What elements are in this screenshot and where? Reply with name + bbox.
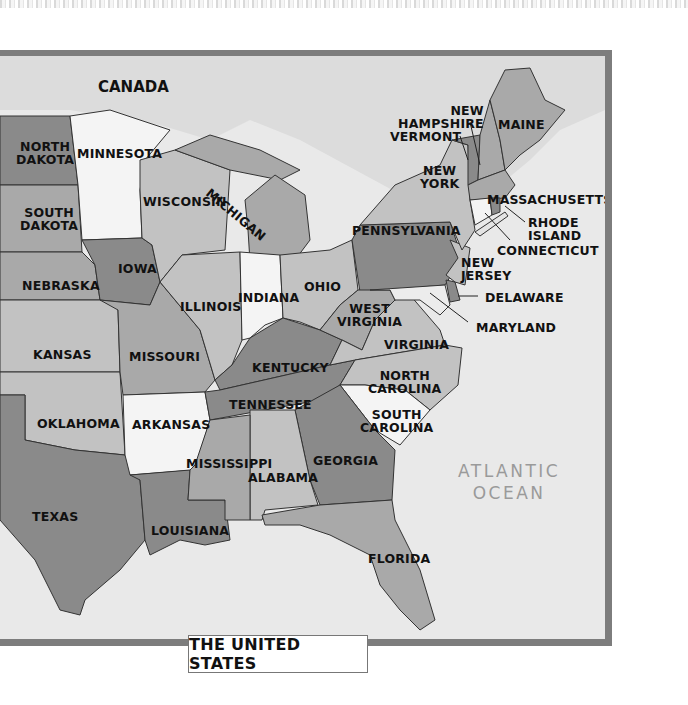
label-west-virginia: WESTVIRGINIA <box>337 302 402 328</box>
label-new-jersey: NEWJERSEY <box>461 256 512 282</box>
label-alabama: ALABAMA <box>248 471 318 484</box>
label-canada: CANADA <box>98 78 169 96</box>
label-texas: TEXAS <box>32 510 78 523</box>
state-michigan-lower <box>245 175 310 262</box>
label-north-dakota: NORTHDAKOTA <box>16 140 74 166</box>
label-maine: MAINE <box>498 118 545 131</box>
label-connecticut: CONNECTICUT <box>497 244 599 257</box>
map-title-box: THE UNITED STATES <box>188 635 368 673</box>
label-iowa: IOWA <box>118 262 157 275</box>
label-mississippi: MISSISSIPPI <box>186 457 272 470</box>
map-title: THE UNITED STATES <box>189 635 367 673</box>
label-maryland: MARYLAND <box>476 321 556 334</box>
label-arkansas: ARKANSAS <box>132 418 210 431</box>
label-pennsylvania: PENNSYLVANIA <box>352 224 461 237</box>
label-wisconsin: WISCONSIN <box>143 195 227 208</box>
label-south-dakota: SOUTHDAKOTA <box>20 206 78 232</box>
label-kentucky: KENTUCKY <box>252 361 329 374</box>
label-new-hampshire: NEWHAMPSHIRE <box>398 104 484 130</box>
label-delaware: DELAWARE <box>485 291 564 304</box>
label-atlantic-ocean: ATLANTIC OCEAN <box>458 460 560 504</box>
label-massachusetts: MASSACHUSETTS <box>487 193 605 206</box>
scan-noise-strip <box>0 0 688 8</box>
label-tennessee: TENNESSEE <box>229 398 312 411</box>
label-north-carolina: NORTHCAROLINA <box>368 369 441 395</box>
label-louisiana: LOUISIANA <box>151 524 229 537</box>
label-georgia: GEORGIA <box>313 454 378 467</box>
label-vermont: VERMONT <box>390 130 461 143</box>
label-minnesota: MINNESOTA <box>77 147 162 160</box>
label-nebraska: NEBRASKA <box>22 279 100 292</box>
label-virginia: VIRGINIA <box>384 338 449 351</box>
label-florida: FLORIDA <box>368 552 430 565</box>
label-illinois: ILLINOIS <box>180 300 242 313</box>
label-south-carolina: SOUTHCAROLINA <box>360 408 433 434</box>
map-frame: CANADA ATLANTIC OCEAN NORTHDAKOTA MINNES… <box>0 50 612 646</box>
label-missouri: MISSOURI <box>129 350 200 363</box>
label-new-york: NEWYORK <box>420 164 459 190</box>
label-oklahoma: OKLAHOMA <box>37 417 120 430</box>
label-ohio: OHIO <box>304 280 341 293</box>
label-rhode-island: RHODEISLAND <box>528 216 581 242</box>
label-kansas: KANSAS <box>33 348 92 361</box>
label-indiana: INDIANA <box>238 291 299 304</box>
map-canvas: CANADA ATLANTIC OCEAN NORTHDAKOTA MINNES… <box>0 56 605 639</box>
